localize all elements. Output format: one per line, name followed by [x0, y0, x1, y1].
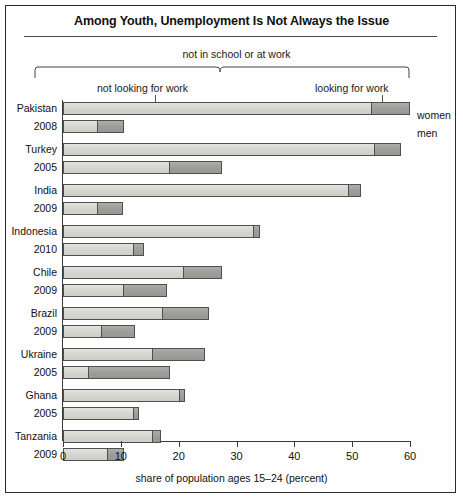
chart-figure: Among Youth, Unemployment Is Not Always … [0, 0, 463, 499]
bar-segment-looking[interactable] [152, 430, 162, 443]
x-tick-label: 50 [346, 450, 358, 462]
bar-segment-looking[interactable] [162, 307, 209, 320]
bar-segment-looking[interactable] [88, 366, 170, 379]
legend-women: women [417, 109, 451, 121]
bar-segment-looking[interactable] [152, 348, 205, 361]
bar-segment-not-looking[interactable] [63, 325, 102, 338]
bar-row[interactable] [63, 202, 123, 215]
bar-segment-looking[interactable] [169, 161, 222, 174]
bar-row[interactable] [63, 366, 170, 379]
bar-row[interactable] [63, 407, 139, 420]
bar-row[interactable] [63, 184, 361, 197]
segment-label-not-looking: not looking for work [97, 82, 188, 94]
title-divider [24, 36, 437, 37]
bar-segment-looking[interactable] [97, 202, 123, 215]
bar-segment-not-looking[interactable] [63, 120, 98, 133]
x-tick [352, 441, 353, 447]
bar-segment-not-looking[interactable] [63, 407, 134, 420]
bar-group [63, 389, 410, 420]
bar-segment-not-looking[interactable] [63, 307, 163, 320]
bar-segment-not-looking[interactable] [63, 184, 349, 197]
bar-row[interactable] [63, 284, 167, 297]
bar-segment-not-looking[interactable] [63, 161, 170, 174]
category-label-country: Ukraine [21, 348, 57, 361]
bar-segment-looking[interactable] [123, 284, 167, 297]
bar-segment-looking[interactable] [101, 325, 136, 338]
bar-segment-not-looking[interactable] [63, 102, 372, 115]
category-label-country: Pakistan [17, 102, 57, 115]
x-tick-label: 30 [230, 450, 242, 462]
bar-group [63, 266, 410, 297]
x-tick [237, 441, 238, 447]
bar-segment-not-looking[interactable] [63, 143, 375, 156]
bar-segment-not-looking[interactable] [63, 389, 180, 402]
bracket-label: not in school or at work [63, 48, 410, 60]
category-label-year: 2009 [34, 448, 57, 461]
chart-title: Among Youth, Unemployment Is Not Always … [0, 14, 463, 28]
bar-segment-looking[interactable] [348, 184, 361, 197]
x-tick-label: 60 [404, 450, 416, 462]
legend-men: men [417, 127, 437, 139]
x-tick-label: 40 [288, 450, 300, 462]
bar-segment-not-looking[interactable] [63, 284, 124, 297]
bar-segment-looking[interactable] [253, 225, 260, 238]
category-label-year: 2009 [34, 202, 57, 215]
bar-group [63, 102, 410, 133]
bar-group [63, 184, 410, 215]
segment-label-looking: looking for work [315, 82, 389, 94]
category-label-country: Brazil [31, 307, 57, 320]
bar-segment-not-looking[interactable] [63, 266, 184, 279]
bar-segment-looking[interactable] [374, 143, 401, 156]
bracket-icon [34, 66, 410, 79]
x-tick-label: 0 [60, 450, 66, 462]
bar-row[interactable] [63, 307, 209, 320]
x-tick [410, 441, 411, 447]
bar-segment-looking[interactable] [183, 266, 222, 279]
category-label-year: 2005 [34, 366, 57, 379]
category-label-year: 2005 [34, 407, 57, 420]
category-label-country: India [34, 184, 57, 197]
bar-segment-not-looking[interactable] [63, 348, 153, 361]
category-label-year: 2008 [34, 120, 57, 133]
bar-row[interactable] [63, 348, 205, 361]
bar-segment-looking[interactable] [179, 389, 185, 402]
bar-segment-looking[interactable] [133, 243, 144, 256]
bar-group [63, 348, 410, 379]
bar-row[interactable] [63, 430, 161, 443]
bar-row[interactable] [63, 243, 144, 256]
bar-row[interactable] [63, 143, 401, 156]
x-axis-title: share of population ages 15–24 (percent) [0, 472, 463, 484]
category-label-year: 2009 [34, 284, 57, 297]
bar-segment-looking[interactable] [371, 102, 410, 115]
category-label-year: 2010 [34, 243, 57, 256]
bar-row[interactable] [63, 120, 124, 133]
category-label-year: 2009 [34, 325, 57, 338]
bar-segment-not-looking[interactable] [63, 243, 134, 256]
category-label-country: Chile [33, 266, 57, 279]
bar-segment-not-looking[interactable] [63, 225, 254, 238]
category-label-country: Indonesia [11, 225, 57, 238]
category-label-country: Ghana [25, 389, 57, 402]
bar-segment-not-looking[interactable] [63, 448, 108, 461]
bar-segment-looking[interactable] [133, 407, 139, 420]
bar-row[interactable] [63, 102, 410, 115]
plot-area [63, 100, 410, 440]
x-tick [179, 441, 180, 447]
category-label-year: 2005 [34, 161, 57, 174]
x-tick [121, 441, 122, 447]
bar-row[interactable] [63, 266, 222, 279]
bar-row[interactable] [63, 161, 222, 174]
bar-segment-not-looking[interactable] [63, 366, 89, 379]
bar-group [63, 143, 410, 174]
bar-row[interactable] [63, 325, 135, 338]
bar-segment-not-looking[interactable] [63, 202, 98, 215]
x-tick-label: 10 [115, 450, 127, 462]
bar-group [63, 225, 410, 256]
bar-segment-looking[interactable] [97, 120, 124, 133]
bar-segment-not-looking[interactable] [63, 430, 153, 443]
x-tick-label: 20 [173, 450, 185, 462]
x-tick [63, 441, 64, 447]
category-label-country: Turkey [25, 143, 57, 156]
bar-row[interactable] [63, 225, 260, 238]
bar-row[interactable] [63, 389, 185, 402]
